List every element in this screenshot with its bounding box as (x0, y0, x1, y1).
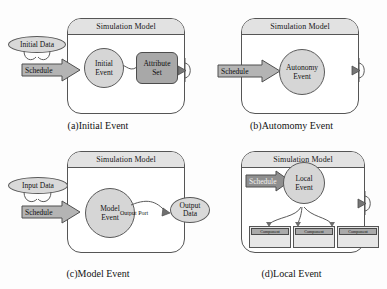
autonomy-event-circle: Autonomy Event (279, 49, 325, 95)
attribute-set-line1: Attribute (143, 59, 170, 68)
component-box-1: Component (249, 226, 291, 248)
caption-a: (a)Initial Event (0, 120, 196, 131)
component-title-1: Component (251, 228, 289, 235)
panel-local-event: Simulation Model Schedule Local Event (196, 145, 387, 289)
initial-event-circle: Initial Event (84, 48, 124, 88)
local-event-circle: Local Event (283, 162, 325, 204)
input-data-oval: Input Data (8, 177, 68, 194)
attribute-set-line2: Set (152, 68, 162, 77)
output-data-line2: Data (183, 210, 197, 219)
autonomy-event-line1: Autonomy (286, 63, 318, 72)
panel-initial-event: Simulation Model Initial Data Schedule (0, 0, 196, 145)
attribute-set-box: Attribute Set (136, 52, 178, 84)
initial-data-label: Initial Data (20, 40, 54, 49)
schedule-label-d: Schedule (246, 171, 277, 191)
autonomy-event-line2: Event (293, 72, 311, 81)
model-event-line2: Event (101, 213, 119, 222)
panel-model-event: Simulation Model Input Data Schedule Mod… (0, 145, 196, 289)
figure-simulation-model-events: Simulation Model Initial Data Schedule (0, 0, 387, 289)
schedule-label-b: Schedule (218, 60, 249, 82)
panel-autonomy-event: Simulation Model Schedule Autonomy Event… (196, 0, 387, 145)
schedule-arrow-c: Schedule (22, 201, 80, 223)
model-title-a: Simulation Model (68, 19, 184, 35)
component-box-3: Component (337, 226, 379, 248)
initial-event-line2: Event (95, 68, 113, 77)
component-title-3: Component (339, 228, 377, 235)
model-title-b: Simulation Model (242, 19, 358, 35)
output-port-label: Output Port (120, 210, 148, 216)
initial-data-oval: Initial Data (8, 36, 66, 53)
component-box-2: Component (293, 226, 335, 248)
schedule-arrow-a: Schedule (22, 59, 80, 81)
initial-event-line1: Initial (95, 59, 113, 68)
component-title-2: Component (295, 228, 333, 235)
caption-b: (b)Automomy Event (196, 120, 387, 131)
caption-c: (c)Model Event (0, 268, 196, 279)
model-event-line1: Model (100, 204, 120, 213)
local-event-line2: Event (295, 183, 313, 192)
local-event-line1: Local (295, 174, 312, 183)
schedule-arrow-b: Schedule (218, 60, 280, 82)
schedule-label-c: Schedule (22, 201, 53, 223)
model-title-c: Simulation Model (68, 152, 184, 168)
input-data-label: Input Data (22, 181, 54, 190)
schedule-label-a: Schedule (22, 59, 53, 81)
caption-d: (d)Local Event (196, 268, 387, 279)
